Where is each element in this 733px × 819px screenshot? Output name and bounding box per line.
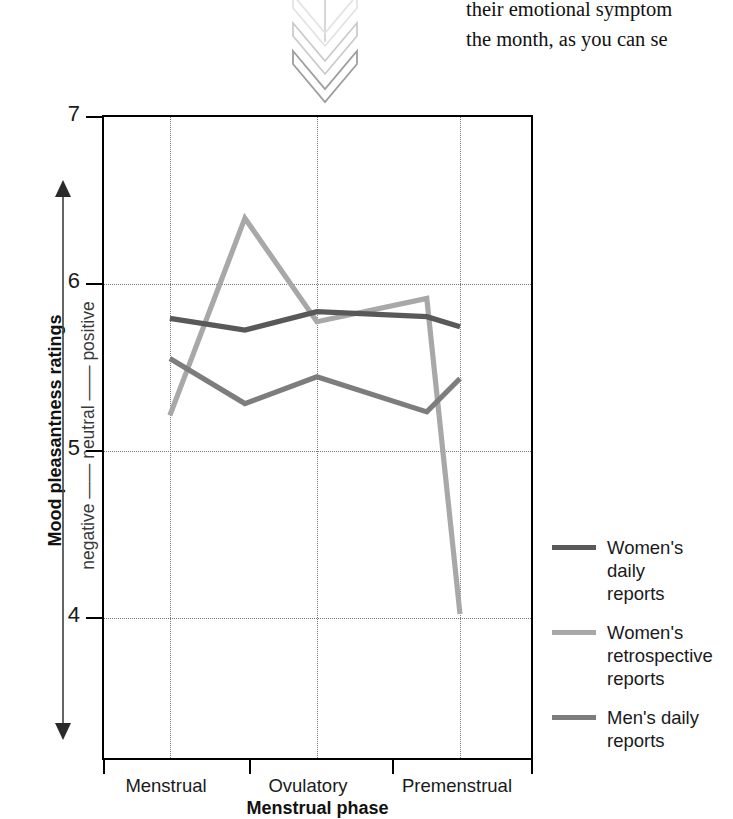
- page-body-text-line-1: their emotional symptom: [466, 0, 733, 24]
- chart-legend: Women'sdailyreports Women'sretrospective…: [552, 536, 730, 768]
- y-tick-label-4: 4: [52, 602, 80, 628]
- legend-label-womens-daily-reports: Women'sdailyreports: [607, 536, 683, 605]
- series-line-womens-retrospective-reports: [170, 218, 460, 614]
- x-axis-title: Menstrual phase: [102, 798, 533, 819]
- y-tick-label-5: 5: [52, 435, 80, 461]
- legend-entry-womens-retrospective-reports: Women'sretrospectivereports: [552, 621, 730, 690]
- legend-swatch-mens-daily-reports: [552, 715, 596, 720]
- x-tick-label-ovulatory: Ovulatory: [248, 775, 368, 797]
- y-axis-scale-annotation: negative —— neutral —— positive: [78, 286, 99, 586]
- y-tick-label-7: 7: [52, 101, 80, 127]
- page-body-text-line-2: the month, as you can se: [466, 24, 733, 54]
- legend-swatch-womens-daily-reports: [552, 545, 596, 550]
- legend-entry-womens-daily-reports: Women'sdailyreports: [552, 536, 730, 605]
- double-chevron-down-icon: [282, 0, 368, 105]
- legend-label-womens-retrospective-reports: Women'sretrospectivereports: [607, 621, 713, 690]
- y-tick-label-6: 6: [52, 268, 80, 294]
- legend-label-mens-daily-reports: Men's dailyreports: [607, 706, 699, 752]
- x-tick-label-premenstrual: Premenstrual: [382, 775, 532, 797]
- legend-swatch-womens-retrospective-reports: [552, 630, 596, 635]
- series-line-mens-daily-reports: [170, 359, 460, 412]
- page-body-text: their emotional symptom the month, as yo…: [466, 0, 733, 54]
- legend-entry-mens-daily-reports: Men's dailyreports: [552, 706, 730, 752]
- chart-plot-area: [102, 115, 533, 760]
- x-tick-label-menstrual: Menstrual: [106, 775, 226, 797]
